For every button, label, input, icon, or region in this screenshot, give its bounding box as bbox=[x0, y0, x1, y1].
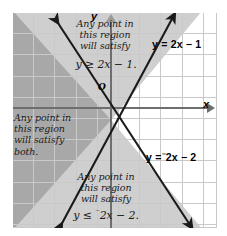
line-label-lower: y =⁻2x − 2 bbox=[146, 151, 196, 164]
line-label-upper-lhs: y bbox=[152, 38, 158, 50]
annotation-bottom-line-1: Any point in bbox=[64, 171, 148, 182]
figure-canvas: y x O Any point in this region will sati… bbox=[0, 0, 227, 236]
annotation-top-line-1: Any point in bbox=[63, 18, 147, 29]
annotation-bottom-line-2: this region bbox=[64, 182, 148, 193]
annotation-left-line-2: this region bbox=[14, 123, 92, 134]
annotation-left-region: Any point in this region will satisfy bo… bbox=[14, 112, 92, 157]
line-label-upper: y = 2x − 1 bbox=[152, 38, 201, 50]
x-axis-label: x bbox=[203, 98, 209, 111]
annotation-left-line-1: Any point in bbox=[14, 112, 92, 123]
line-label-lower-rhs: 2x − 2 bbox=[166, 151, 197, 163]
annotation-bottom-equation: y ≤ ⁻2x − 2. bbox=[58, 207, 154, 223]
line-label-lower-lhs: y bbox=[146, 151, 152, 163]
annotation-bottom-eq-rest: 2x − 2. bbox=[100, 209, 139, 222]
origin-label: O bbox=[98, 82, 106, 93]
annotation-bottom-eq-prefix: y ≤ bbox=[73, 209, 95, 222]
annotation-top-region: Any point in this region will satisfy bbox=[63, 18, 147, 52]
annotation-top-equation: y ≥ 2x − 1. bbox=[60, 59, 152, 72]
line-label-upper-rhs: 2x − 1 bbox=[171, 38, 202, 50]
annotation-top-line-3: will satisfy bbox=[63, 40, 147, 51]
line-label-upper-equals: = bbox=[161, 38, 167, 50]
annotation-bottom-region: Any point in this region will satisfy bbox=[64, 171, 148, 205]
annotation-left-line-3: will satisfy bbox=[14, 134, 92, 145]
annotation-bottom-line-3: will satisfy bbox=[64, 193, 148, 204]
annotation-left-line-4: both. bbox=[14, 146, 92, 157]
annotation-top-line-2: this region bbox=[63, 29, 147, 40]
